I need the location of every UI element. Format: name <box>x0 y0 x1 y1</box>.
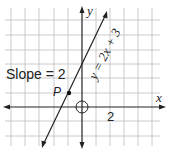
x-tick-label: 2 <box>107 110 114 123</box>
line-top-arrow-icon <box>103 11 108 19</box>
line-bottom-arrow-icon <box>42 141 47 149</box>
point-p <box>67 91 71 95</box>
y-axis-down-arrow-icon <box>80 142 85 149</box>
slope-label: Slope = 2 <box>6 67 66 81</box>
x-axis-left-arrow-icon <box>3 105 10 110</box>
y-axis-up-arrow-icon <box>80 6 85 13</box>
x-axis-label: x <box>156 91 162 104</box>
x-axis-right-arrow-icon <box>159 105 166 110</box>
y-axis-label: y <box>87 4 93 17</box>
point-p-label: P <box>53 86 61 98</box>
